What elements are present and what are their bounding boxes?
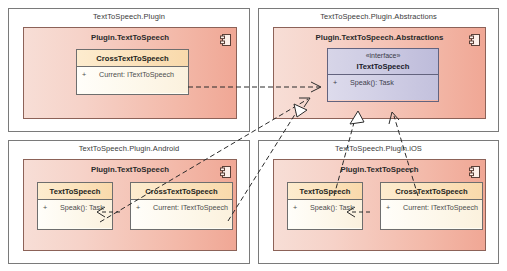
member-visibility: +: [136, 203, 140, 212]
interface-itexttospeech[interactable]: «interface» ITextToSpeech + Speak(): Tas…: [327, 48, 439, 102]
class-header: TextToSpeech: [288, 183, 362, 200]
interface-header: «interface» ITextToSpeech: [328, 49, 438, 75]
class-member: + Current: ITextToSpeech: [381, 200, 482, 214]
class-member: + Speak(): Task: [288, 200, 362, 214]
interface-stereotype: «interface»: [328, 52, 438, 59]
package-ios[interactable]: TextToSpeech.Plugin.iOS Plugin.TextToSpe…: [258, 140, 499, 264]
class-header: CrossTextToSpeech: [381, 183, 482, 200]
class-member: + Current: ITextToSpeech: [131, 200, 232, 214]
class-body: + Current: ITextToSpeech: [131, 200, 232, 228]
package-abstractions[interactable]: TextToSpeech.Plugin.Abstractions Plugin.…: [258, 8, 499, 132]
package-plugin[interactable]: TextToSpeech.Plugin Plugin.TextToSpeech …: [8, 8, 250, 132]
component-title-plugin-texttospeech-android: Plugin.TextToSpeech: [24, 165, 236, 174]
class-cross-texttospeech-ios[interactable]: CrossTextToSpeech + Current: ITextToSpee…: [380, 182, 483, 230]
component-icon: [469, 32, 480, 44]
component-icon: [469, 164, 480, 176]
interface-name: ITextToSpeech: [328, 62, 438, 71]
class-cross-texttospeech-plugin[interactable]: CrossTextToSpeech + Current: ITextToSpee…: [76, 49, 189, 95]
component-title-plugin-texttospeech-ios: Plugin.TextToSpeech: [274, 165, 485, 174]
interface-body: + Speak(): Task: [328, 75, 438, 100]
class-texttospeech-ios[interactable]: TextToSpeech + Speak(): Task: [287, 182, 363, 230]
class-member: + Speak(): Task: [38, 200, 112, 214]
component-title-plugin-texttospeech: Plugin.TextToSpeech: [24, 33, 236, 42]
component-icon: [220, 164, 231, 176]
member-visibility: +: [43, 203, 47, 212]
member-signature: Speak(): Task: [350, 78, 394, 87]
class-body: + Speak(): Task: [38, 200, 112, 228]
class-cross-texttospeech-android[interactable]: CrossTextToSpeech + Current: ITextToSpee…: [130, 182, 233, 230]
class-header: CrossTextToSpeech: [77, 50, 188, 67]
member-signature: Current: ITextToSpeech: [99, 70, 174, 79]
class-name: TextToSpeech: [288, 187, 362, 196]
class-body: + Speak(): Task: [288, 200, 362, 228]
component-plugin-abstractions[interactable]: Plugin.TextToSpeech.Abstractions «interf…: [273, 27, 486, 119]
class-name: TextToSpeech: [38, 187, 112, 196]
member-visibility: +: [293, 203, 297, 212]
member-visibility: +: [386, 203, 390, 212]
package-title-abstractions: TextToSpeech.Plugin.Abstractions: [259, 12, 498, 21]
class-name: CrossTextToSpeech: [77, 54, 188, 63]
class-texttospeech-android[interactable]: TextToSpeech + Speak(): Task: [37, 182, 113, 230]
member-visibility: +: [333, 78, 337, 87]
member-signature: Speak(): Task: [310, 203, 354, 212]
class-header: TextToSpeech: [38, 183, 112, 200]
component-icon: [220, 32, 231, 44]
component-title-plugin-abstractions: Plugin.TextToSpeech.Abstractions: [274, 33, 485, 42]
member-signature: Current: ITextToSpeech: [153, 203, 228, 212]
member-signature: Speak(): Task: [60, 203, 104, 212]
class-body: + Current: ITextToSpeech: [381, 200, 482, 228]
package-title-plugin: TextToSpeech.Plugin: [9, 12, 249, 21]
class-header: CrossTextToSpeech: [131, 183, 232, 200]
class-name: CrossTextToSpeech: [381, 187, 482, 196]
component-plugin-texttospeech-android[interactable]: Plugin.TextToSpeech TextToSpeech + Speak…: [23, 159, 237, 251]
component-plugin-texttospeech[interactable]: Plugin.TextToSpeech CrossTextToSpeech + …: [23, 27, 237, 119]
class-name: CrossTextToSpeech: [131, 187, 232, 196]
interface-member: + Speak(): Task: [328, 75, 438, 89]
package-android[interactable]: TextToSpeech.Plugin.Android Plugin.TextT…: [8, 140, 250, 264]
member-signature: Current: ITextToSpeech: [403, 203, 478, 212]
member-visibility: +: [82, 70, 86, 79]
uml-component-diagram: TextToSpeech.Plugin Plugin.TextToSpeech …: [0, 0, 507, 271]
class-member: + Current: ITextToSpeech: [77, 67, 188, 81]
package-title-android: TextToSpeech.Plugin.Android: [9, 144, 249, 153]
package-title-ios: TextToSpeech.Plugin.iOS: [259, 144, 498, 153]
class-body: + Current: ITextToSpeech: [77, 67, 188, 93]
component-plugin-texttospeech-ios[interactable]: Plugin.TextToSpeech TextToSpeech + Speak…: [273, 159, 486, 251]
